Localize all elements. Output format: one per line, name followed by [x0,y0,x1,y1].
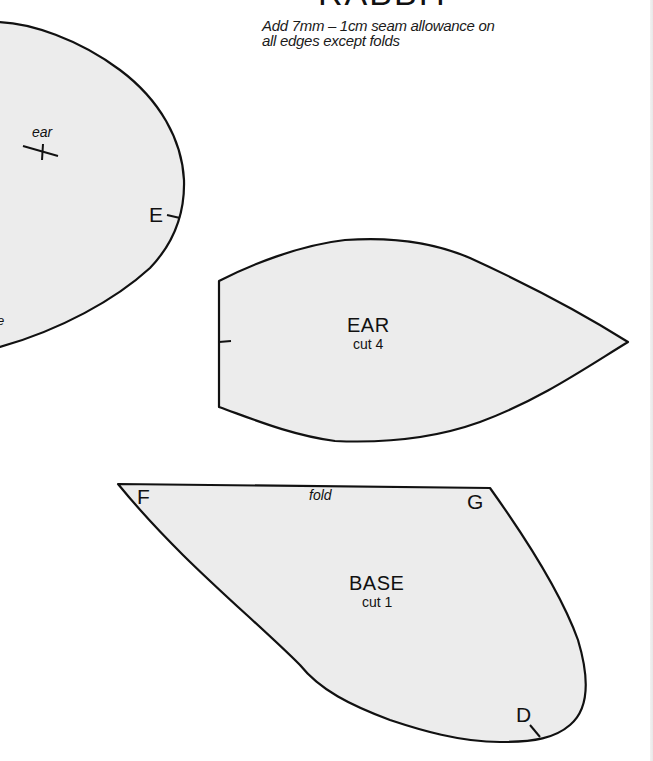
ear-piece-outline [219,239,628,441]
corner-f-label: F [137,485,150,509]
notch-e-label: E [149,203,163,227]
head-piece-outline [0,22,184,347]
ear-piece [219,239,628,441]
fold-label: fold [309,487,332,503]
base-cut-count: cut 1 [362,594,392,610]
partial-label: e [0,313,4,328]
pattern-pieces-canvas [0,0,653,761]
ear-cut-count: cut 4 [353,336,383,352]
ear-notch-mark [219,341,231,342]
ear-placement-tick [42,144,43,160]
notch-d-label: D [516,703,531,727]
ear-placement-label: ear [32,124,52,140]
head-piece [0,22,184,347]
ear-piece-name: EAR [347,314,390,337]
base-piece-name: BASE [349,572,404,595]
corner-g-label: G [467,490,483,514]
